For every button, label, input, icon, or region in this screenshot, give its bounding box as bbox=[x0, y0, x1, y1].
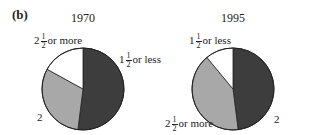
label-1995-two: 2 bbox=[274, 114, 280, 125]
pie-slice bbox=[78, 48, 124, 130]
label-1970-two-half-or-more: 212or more bbox=[34, 33, 82, 50]
label-1970-two: 2 bbox=[37, 112, 43, 123]
label-1970-one-half-or-less: 112or less bbox=[119, 52, 161, 69]
label-1995-two-half-or-more: 212or more bbox=[165, 116, 213, 133]
pie-1970 bbox=[42, 48, 124, 130]
label-1995-one-half-or-less: 112or less bbox=[189, 33, 231, 50]
pie-slice bbox=[233, 48, 274, 130]
